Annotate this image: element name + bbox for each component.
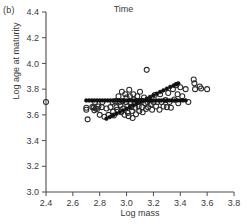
data-point-open: [116, 94, 121, 99]
data-point-open: [138, 89, 143, 94]
y-tick-label: 3.4: [26, 136, 39, 146]
x-tick-label: 2.6: [67, 198, 80, 208]
data-point-open: [183, 87, 188, 92]
data-point-filled: [184, 99, 188, 103]
data-point-open: [166, 91, 171, 96]
x-tick-label: 2.4: [40, 198, 53, 208]
x-axis-ticks: 2.42.62.83.03.23.43.63.8: [40, 192, 241, 208]
y-tick-label: 3.8: [26, 84, 39, 94]
x-tick-label: 3.0: [120, 198, 133, 208]
data-point-open: [85, 117, 90, 122]
x-tick-label: 3.8: [228, 198, 241, 208]
x-tick-label: 3.4: [174, 198, 187, 208]
data-point-filled: [176, 81, 180, 85]
data-point-open: [193, 87, 198, 92]
y-tick-label: 4.4: [26, 7, 39, 17]
x-tick-label: 3.6: [201, 198, 214, 208]
x-tick-label: 3.2: [147, 198, 160, 208]
figure-panel: (b) Time Log age at maturity Log mass 3.…: [0, 0, 247, 224]
y-tick-label: 3.6: [26, 110, 39, 120]
scatter-plot-canvas: 3.03.23.43.63.84.04.24.4 2.42.62.83.03.2…: [0, 0, 247, 224]
data-point-open: [119, 89, 124, 94]
y-tick-label: 3.2: [26, 161, 39, 171]
data-series-layer: [44, 67, 210, 122]
series-observed: [44, 67, 210, 122]
data-point-open: [127, 87, 132, 92]
y-tick-label: 3.0: [26, 187, 39, 197]
y-tick-label: 4.0: [26, 59, 39, 69]
data-point-open: [205, 87, 210, 92]
data-point-open: [180, 94, 185, 99]
y-tick-label: 4.2: [26, 33, 39, 43]
data-point-open: [144, 67, 149, 72]
x-tick-label: 2.8: [93, 198, 106, 208]
